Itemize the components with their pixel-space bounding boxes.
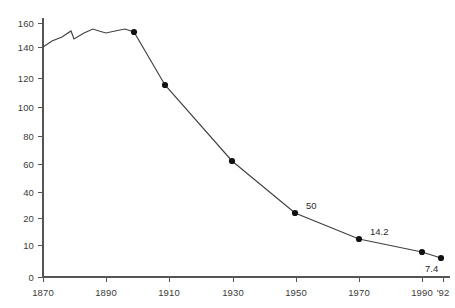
data-point-value-label: 14.2 [370, 226, 389, 237]
x-tick-label: 1990 [411, 287, 433, 298]
axes-group [38, 18, 450, 282]
y-tick-label: 20 [0, 213, 34, 224]
data-point-marker [229, 158, 235, 164]
y-tick-label: 60 [0, 159, 34, 170]
y-tick-label: 0 [0, 272, 34, 283]
y-tick-label: 160 [0, 18, 34, 29]
x-axis-ticks [43, 277, 443, 282]
y-tick-label: 80 [0, 131, 34, 142]
data-point-marker [292, 210, 298, 216]
y-tick-label: 100 [0, 102, 34, 113]
x-tick-label: 1930 [222, 287, 244, 298]
chart-plot-area [0, 0, 455, 308]
data-point-marker [438, 255, 444, 261]
x-tick-label: '92 [437, 287, 450, 298]
x-tick-label: 1970 [348, 287, 370, 298]
series-line [43, 29, 441, 258]
y-tick-label: 40 [0, 187, 34, 198]
data-point-value-label: 50 [306, 200, 317, 211]
y-tick-label: 10 [0, 240, 34, 251]
data-point-marker [162, 82, 168, 88]
y-tick-label: 120 [0, 73, 34, 84]
data-point-marker [419, 249, 425, 255]
x-tick-label: 1870 [32, 287, 54, 298]
x-tick-label: 1950 [285, 287, 307, 298]
x-tick-label: 1910 [158, 287, 180, 298]
data-point-marker [131, 29, 137, 35]
y-tick-label: 140 [0, 42, 34, 53]
x-tick-label: 1890 [95, 287, 117, 298]
data-point-marker [356, 236, 362, 242]
series-markers [131, 29, 444, 261]
y-axis-ticks [38, 23, 43, 277]
data-point-value-label: 7.4 [425, 263, 438, 274]
chart-figure: 16014012010080604020100 1870189019101930… [0, 0, 455, 308]
